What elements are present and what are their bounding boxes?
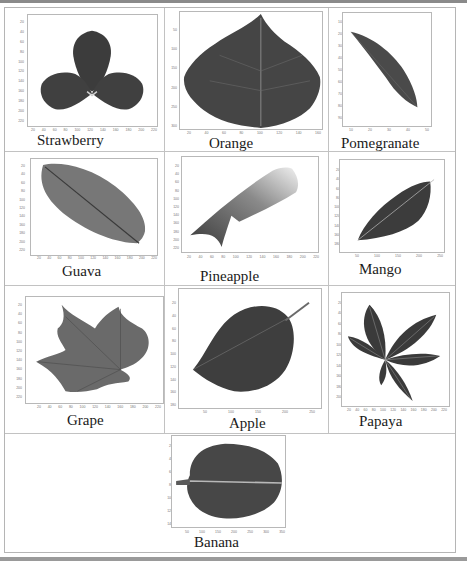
tick: 160	[173, 221, 179, 225]
tick: 100	[173, 197, 179, 201]
tick: 20	[175, 164, 179, 168]
tick: 250	[437, 254, 443, 258]
pomegranate-leaf-icon	[343, 13, 431, 126]
x-axis-ticks: 20406080100120140160180200220	[347, 408, 447, 412]
leaf-image-pomegranate	[342, 12, 432, 127]
tick: 100	[374, 254, 380, 258]
tick: 60	[20, 40, 24, 44]
tick: 80	[68, 256, 72, 260]
banana-leaf-icon	[172, 436, 285, 527]
tick: 300	[171, 124, 177, 128]
tick: 100	[228, 410, 234, 414]
tick: 140	[296, 131, 302, 135]
tick: 120	[246, 255, 252, 259]
y-axis-ticks: 20406080100120140160180200220	[13, 164, 25, 252]
tick: 40	[172, 314, 176, 318]
tick: 220	[18, 119, 24, 123]
tick: 40	[175, 172, 179, 176]
tick: 140	[18, 79, 24, 83]
tick: 220	[151, 256, 157, 260]
caption-orange: Orange	[209, 135, 253, 152]
tick: 160	[273, 255, 279, 259]
tick: 40	[20, 30, 24, 34]
tick: 80	[69, 405, 73, 409]
tick: 220	[441, 408, 447, 412]
y-axis-ticks: 20406080100120140160180200220	[10, 20, 24, 123]
tick: 80	[18, 331, 22, 335]
panel-grape: 20406080100120140160180200220 2040608010…	[5, 286, 164, 433]
x-axis-ticks: 20406080100120140160180200220	[187, 255, 319, 259]
tick: 40	[406, 128, 410, 132]
tick: 100	[80, 405, 86, 409]
tick: 20	[21, 164, 25, 168]
mango-leaf-icon	[340, 160, 444, 252]
tick: 200	[300, 255, 306, 259]
tick: 200	[431, 408, 437, 412]
x-axis-ticks: 1020304050	[349, 128, 429, 132]
tick: 220	[19, 248, 25, 252]
tick: 100	[170, 352, 176, 356]
orange-leaf-icon	[180, 12, 322, 129]
pineapple-leaf-icon	[182, 157, 318, 252]
tick: 200	[138, 128, 144, 132]
tick: 100	[233, 255, 239, 259]
tick: 220	[313, 255, 319, 259]
tick: 200	[173, 238, 179, 242]
tick: 40	[198, 255, 202, 259]
tick: 100	[16, 340, 22, 344]
x-axis-ticks: 20406080100120140160180200220	[37, 405, 161, 409]
tick: 20	[187, 255, 191, 259]
tick: 180	[127, 256, 133, 260]
tick: 100	[257, 131, 263, 135]
tick: 40	[21, 172, 25, 176]
leaf-image-apple	[178, 288, 322, 409]
tick: 20	[187, 131, 191, 135]
tick: 140	[260, 255, 266, 259]
tick: 20	[172, 301, 176, 305]
tick: 220	[16, 395, 22, 399]
tick: 60	[172, 327, 176, 331]
y-axis-ticks: 50100150200250300	[166, 28, 177, 128]
panel-banana: 20406080100120140 50100150200250300350 B…	[5, 434, 455, 552]
caption-pineapple: Pineapple	[200, 268, 259, 285]
tick: 160	[315, 131, 321, 135]
tick: 50	[173, 28, 177, 32]
tick: 50	[355, 254, 359, 258]
tick: 10	[349, 128, 353, 132]
tick: 140	[102, 256, 108, 260]
tick: 80	[175, 189, 179, 193]
tick: 160	[117, 405, 123, 409]
tick: 350	[279, 530, 285, 534]
caption-guava: Guava	[62, 263, 101, 280]
tick: 180	[16, 377, 22, 381]
tick: 20	[37, 256, 41, 260]
tick: 180	[18, 99, 24, 103]
tick: 60	[18, 321, 22, 325]
guava-leaf-icon	[31, 159, 157, 255]
tick: 160	[19, 223, 25, 227]
tick: 160	[16, 367, 22, 371]
tick: 220	[151, 128, 157, 132]
panel-pineapple: 20406080100120140160180200220 2040608010…	[165, 152, 328, 285]
tick: 100	[18, 60, 24, 64]
x-axis-ticks: 50100150200250	[203, 410, 315, 414]
tick: 200	[416, 254, 422, 258]
tick: 180	[421, 408, 427, 412]
tick: 200	[171, 86, 177, 90]
tick: 120	[390, 408, 396, 412]
y-axis-ticks: 20406080100120140160180200220	[168, 164, 179, 250]
tick: 50	[185, 530, 189, 534]
tick: 120	[276, 131, 282, 135]
tick: 160	[411, 408, 417, 412]
tick: 20	[31, 128, 35, 132]
tick: 140	[400, 408, 406, 412]
tick: 60	[364, 408, 368, 412]
tick: 40	[204, 131, 208, 135]
tick: 120	[18, 69, 24, 73]
tick: 100	[19, 198, 25, 202]
panel-mango: 20406080100120140160180 50100150200250 M…	[329, 152, 455, 285]
x-axis-ticks: 50100150200250	[355, 254, 443, 258]
tick: 30	[387, 128, 391, 132]
tick: 160	[113, 128, 119, 132]
tick: 140	[173, 213, 179, 217]
